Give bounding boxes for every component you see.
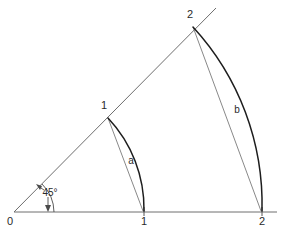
label-x-two: 2 bbox=[259, 215, 265, 227]
angle-arrowhead-lower bbox=[45, 205, 51, 212]
diagonal-ray-line bbox=[14, 8, 216, 212]
chord-a bbox=[108, 118, 143, 211]
label-arc-b: b bbox=[234, 104, 240, 115]
label-origin: 0 bbox=[7, 215, 13, 227]
label-arc-a: a bbox=[128, 155, 134, 166]
label-x-one: 1 bbox=[141, 215, 147, 227]
geometry-figure: 0 1 2 1 2 45° a b bbox=[0, 0, 286, 229]
diagram-canvas: 0 1 2 1 2 45° a b bbox=[0, 0, 286, 229]
chord-b bbox=[193, 27, 261, 211]
label-diagonal-one: 1 bbox=[101, 99, 107, 111]
label-angle-45: 45° bbox=[42, 187, 57, 198]
label-diagonal-two: 2 bbox=[187, 8, 193, 20]
